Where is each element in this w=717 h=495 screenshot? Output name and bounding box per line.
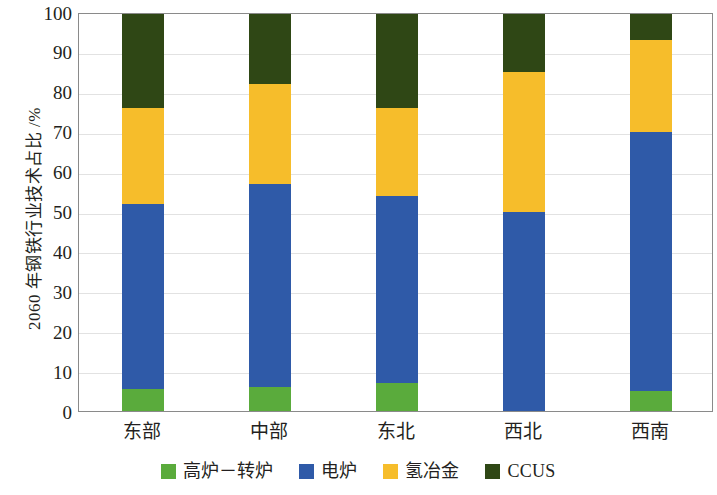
x-axis-tick-label: 西南 (586, 418, 713, 446)
legend-item[interactable]: 电炉 (299, 462, 357, 480)
bar-segment[interactable] (630, 40, 672, 132)
bars-layer (79, 14, 712, 411)
legend-label: CCUS (507, 462, 555, 480)
bar-segment[interactable] (376, 196, 418, 384)
x-axis-tick-label: 西北 (459, 418, 586, 446)
x-axis-tick-label: 东北 (332, 418, 459, 446)
plot-area (78, 13, 713, 412)
y-axis-tick-labels: 0102030405060708090100 (22, 0, 72, 420)
legend-item[interactable]: 高炉－转炉 (161, 462, 273, 480)
stacked-bar[interactable] (249, 14, 291, 411)
bar-segment[interactable] (630, 132, 672, 391)
legend-item[interactable]: CCUS (485, 462, 555, 480)
bar-segment[interactable] (249, 184, 291, 387)
bar-segment[interactable] (376, 383, 418, 411)
bar-segment[interactable] (249, 84, 291, 184)
bar-segment[interactable] (503, 212, 545, 412)
stacked-bar[interactable] (376, 14, 418, 411)
bar-segment[interactable] (122, 204, 164, 390)
legend-label: 电炉 (321, 462, 357, 480)
x-axis-tick-labels: 东部中部东北西北西南 (78, 418, 713, 452)
y-axis-tick-label: 70 (22, 123, 72, 142)
legend-label: 氢冶金 (405, 462, 459, 480)
bar-segment[interactable] (122, 389, 164, 411)
bar-segment[interactable] (249, 13, 291, 84)
x-axis-tick-label: 东部 (78, 418, 205, 446)
y-axis-tick-label: 30 (22, 283, 72, 302)
bar-group (79, 14, 206, 411)
bar-group (333, 14, 460, 411)
legend-swatch-icon (299, 464, 314, 479)
bar-segment[interactable] (630, 391, 672, 411)
legend-swatch-icon (161, 464, 176, 479)
y-axis-tick-label: 60 (22, 163, 72, 182)
y-axis-tick-label: 50 (22, 203, 72, 222)
bar-segment[interactable] (249, 387, 291, 411)
y-axis-tick-label: 90 (22, 43, 72, 62)
bar-group (587, 14, 713, 411)
y-axis-tick-label: 0 (22, 403, 72, 422)
y-axis-tick-label: 10 (22, 363, 72, 382)
legend-item[interactable]: 氢冶金 (383, 462, 459, 480)
stacked-bar-chart: 2060 年钢铁行业技术占比 /% 0102030405060708090100… (0, 0, 717, 495)
legend-swatch-icon (485, 464, 500, 479)
bar-segment[interactable] (630, 13, 672, 40)
legend-swatch-icon (383, 464, 398, 479)
bar-segment[interactable] (122, 13, 164, 108)
bar-segment[interactable] (503, 72, 545, 212)
bar-segment[interactable] (503, 13, 545, 72)
bar-segment[interactable] (376, 13, 418, 108)
bar-segment[interactable] (122, 108, 164, 204)
stacked-bar[interactable] (630, 14, 672, 411)
y-axis-tick-label: 40 (22, 243, 72, 262)
stacked-bar[interactable] (122, 14, 164, 411)
legend-label: 高炉－转炉 (183, 462, 273, 480)
stacked-bar[interactable] (503, 14, 545, 411)
bar-segment[interactable] (376, 108, 418, 196)
y-axis-tick-label: 80 (22, 83, 72, 102)
y-axis-tick-label: 20 (22, 323, 72, 342)
y-axis-tick-label: 100 (22, 4, 72, 23)
bar-group (206, 14, 333, 411)
x-axis-tick-label: 中部 (205, 418, 332, 446)
bar-group (460, 14, 587, 411)
chart-legend: 高炉－转炉电炉氢冶金CCUS (0, 462, 717, 480)
